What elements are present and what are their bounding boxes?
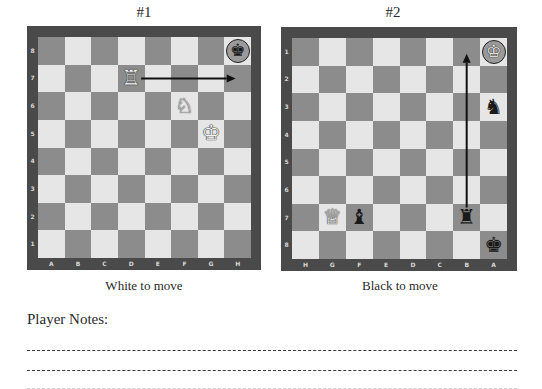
square-f2[interactable] bbox=[346, 66, 373, 94]
square-f7[interactable] bbox=[171, 65, 198, 93]
square-h4[interactable] bbox=[224, 148, 251, 176]
square-c8[interactable] bbox=[91, 37, 118, 65]
square-d6[interactable] bbox=[118, 92, 145, 120]
square-g5[interactable]: ♔ bbox=[198, 120, 225, 148]
square-b3[interactable] bbox=[453, 93, 480, 121]
square-c6[interactable] bbox=[426, 176, 453, 204]
square-h8[interactable]: ♚ bbox=[224, 37, 251, 65]
square-c4[interactable] bbox=[91, 148, 118, 176]
square-h5[interactable] bbox=[292, 149, 319, 177]
square-f4[interactable] bbox=[171, 148, 198, 176]
white-rook-icon[interactable]: ♖ bbox=[122, 68, 141, 89]
square-b3[interactable] bbox=[65, 175, 92, 203]
square-g2[interactable] bbox=[319, 66, 346, 94]
square-a1[interactable] bbox=[38, 230, 65, 258]
square-g3[interactable] bbox=[319, 93, 346, 121]
square-e4[interactable] bbox=[373, 121, 400, 149]
square-f7[interactable]: ♝ bbox=[346, 204, 373, 232]
square-b7[interactable]: ♜ bbox=[453, 204, 480, 232]
square-h4[interactable] bbox=[292, 121, 319, 149]
square-d2[interactable] bbox=[400, 66, 427, 94]
white-queen-icon[interactable]: ♕ bbox=[323, 207, 342, 228]
square-d3[interactable] bbox=[400, 93, 427, 121]
square-c2[interactable] bbox=[91, 203, 118, 231]
square-g3[interactable] bbox=[198, 175, 225, 203]
square-b8[interactable] bbox=[65, 37, 92, 65]
square-e1[interactable] bbox=[145, 230, 172, 258]
square-a6[interactable] bbox=[38, 92, 65, 120]
square-g7[interactable]: ♕ bbox=[319, 204, 346, 232]
square-d5[interactable] bbox=[400, 149, 427, 177]
square-f1[interactable] bbox=[346, 38, 373, 66]
square-e6[interactable] bbox=[373, 176, 400, 204]
square-f5[interactable] bbox=[171, 120, 198, 148]
square-b6[interactable] bbox=[65, 92, 92, 120]
square-e2[interactable] bbox=[373, 66, 400, 94]
square-h5[interactable] bbox=[224, 120, 251, 148]
square-a3[interactable] bbox=[38, 175, 65, 203]
square-d8[interactable] bbox=[118, 37, 145, 65]
square-g5[interactable] bbox=[319, 149, 346, 177]
square-g8[interactable] bbox=[198, 37, 225, 65]
square-f3[interactable] bbox=[346, 93, 373, 121]
square-g1[interactable] bbox=[319, 38, 346, 66]
black-rook-icon[interactable]: ♜ bbox=[457, 207, 476, 228]
square-e4[interactable] bbox=[145, 148, 172, 176]
square-c2[interactable] bbox=[426, 66, 453, 94]
white-king-icon[interactable]: ♔ bbox=[202, 123, 221, 144]
black-bishop-icon[interactable]: ♝ bbox=[350, 207, 369, 228]
square-e5[interactable] bbox=[145, 120, 172, 148]
square-c3[interactable] bbox=[426, 93, 453, 121]
square-f3[interactable] bbox=[171, 175, 198, 203]
white-king-icon[interactable]: ♔ bbox=[482, 40, 506, 64]
square-d1[interactable] bbox=[400, 38, 427, 66]
square-e7[interactable] bbox=[145, 65, 172, 93]
square-a2[interactable] bbox=[480, 66, 507, 94]
square-c4[interactable] bbox=[426, 121, 453, 149]
square-b8[interactable] bbox=[453, 231, 480, 259]
square-g2[interactable] bbox=[198, 203, 225, 231]
square-b2[interactable] bbox=[453, 66, 480, 94]
square-h8[interactable] bbox=[292, 231, 319, 259]
square-b4[interactable] bbox=[65, 148, 92, 176]
white-knight-icon[interactable]: ♘ bbox=[175, 96, 194, 117]
square-g6[interactable] bbox=[198, 92, 225, 120]
square-e6[interactable] bbox=[145, 92, 172, 120]
square-f8[interactable] bbox=[171, 37, 198, 65]
square-g4[interactable] bbox=[198, 148, 225, 176]
square-d2[interactable] bbox=[118, 203, 145, 231]
square-h6[interactable] bbox=[292, 176, 319, 204]
square-b1[interactable] bbox=[453, 38, 480, 66]
square-a3[interactable]: ♞ bbox=[480, 93, 507, 121]
square-a8[interactable] bbox=[38, 37, 65, 65]
square-g1[interactable] bbox=[198, 230, 225, 258]
square-f8[interactable] bbox=[346, 231, 373, 259]
square-a4[interactable] bbox=[480, 121, 507, 149]
square-e7[interactable] bbox=[373, 204, 400, 232]
square-b2[interactable] bbox=[65, 203, 92, 231]
square-g7[interactable] bbox=[198, 65, 225, 93]
square-e2[interactable] bbox=[145, 203, 172, 231]
square-c3[interactable] bbox=[91, 175, 118, 203]
square-b5[interactable] bbox=[65, 120, 92, 148]
square-e3[interactable] bbox=[145, 175, 172, 203]
square-c5[interactable] bbox=[91, 120, 118, 148]
square-f1[interactable] bbox=[171, 230, 198, 258]
square-b1[interactable] bbox=[65, 230, 92, 258]
square-d4[interactable] bbox=[400, 121, 427, 149]
square-d1[interactable] bbox=[118, 230, 145, 258]
notes-line[interactable] bbox=[27, 350, 517, 351]
square-c1[interactable] bbox=[426, 38, 453, 66]
square-d5[interactable] bbox=[118, 120, 145, 148]
square-a5[interactable] bbox=[480, 149, 507, 177]
square-d7[interactable] bbox=[400, 204, 427, 232]
square-h6[interactable] bbox=[224, 92, 251, 120]
square-c8[interactable] bbox=[426, 231, 453, 259]
square-h1[interactable] bbox=[292, 38, 319, 66]
square-h2[interactable] bbox=[292, 66, 319, 94]
square-b5[interactable] bbox=[453, 149, 480, 177]
square-f6[interactable]: ♘ bbox=[171, 92, 198, 120]
square-d4[interactable] bbox=[118, 148, 145, 176]
square-h3[interactable] bbox=[292, 93, 319, 121]
square-d3[interactable] bbox=[118, 175, 145, 203]
